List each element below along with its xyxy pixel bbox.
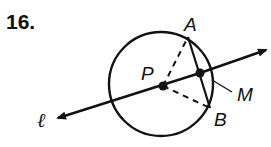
label-p: P	[141, 63, 154, 84]
label-m: M	[237, 84, 253, 105]
m-pointer	[212, 80, 232, 92]
line-l	[200, 50, 266, 73]
geometry-figure: A B P M ℓ	[0, 0, 271, 147]
label-line-l: ℓ	[37, 108, 46, 132]
line-l-left	[58, 73, 200, 118]
label-a: A	[183, 14, 197, 35]
point-m	[196, 69, 205, 78]
radius-pb	[163, 86, 210, 108]
point-p	[159, 82, 168, 91]
label-b: B	[214, 109, 227, 130]
